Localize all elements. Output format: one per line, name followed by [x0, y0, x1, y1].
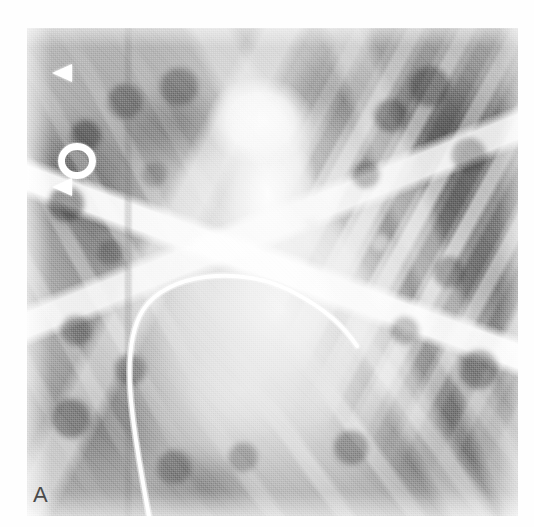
- figure-page: A: [0, 0, 534, 527]
- marker-arrowhead-lower-icon: [52, 178, 72, 196]
- panel-label: A: [33, 484, 48, 506]
- marker-arrowhead-upper-icon: [52, 64, 72, 82]
- marker-ring-icon: [58, 143, 96, 179]
- radiograph-image: [27, 28, 518, 516]
- scan-edge-fade: [27, 28, 518, 516]
